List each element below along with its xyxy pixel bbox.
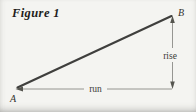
rise-arrow-down-icon xyxy=(170,82,175,90)
segment-ab-line xyxy=(18,16,172,88)
slope-triangle-diagram: B A rise run xyxy=(0,0,196,112)
figure-panel: Figure 1 B A rise run xyxy=(0,0,196,112)
run-label: run xyxy=(89,84,102,94)
point-b-label: B xyxy=(178,7,184,18)
rise-label: rise xyxy=(163,51,177,61)
point-a-label: A xyxy=(9,93,17,104)
